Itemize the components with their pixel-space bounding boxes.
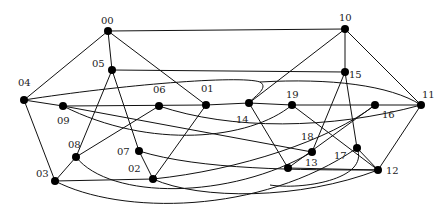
graph-edge: [108, 29, 345, 31]
graph-node-10: [341, 25, 349, 33]
node-label: 03: [36, 168, 49, 179]
graph-edge: [108, 31, 112, 70]
graph-node-00: [104, 27, 112, 35]
graph-edge: [312, 72, 345, 152]
graph-node-11: [417, 101, 425, 109]
edges: [24, 29, 421, 203]
graph-edge: [24, 80, 263, 103]
node-label: 14: [236, 114, 249, 125]
graph-node-14: [245, 99, 253, 107]
graph-edge: [112, 70, 139, 151]
node-label: 06: [153, 84, 166, 95]
graph-node-13: [284, 164, 292, 172]
graph-edge: [76, 152, 312, 189]
node-label: 13: [305, 157, 318, 168]
node-label: 07: [117, 146, 130, 157]
graph-edge: [139, 151, 153, 179]
graph-edge: [249, 103, 292, 105]
graph-node-06: [155, 102, 163, 110]
node-label: 02: [128, 163, 141, 174]
graph-node-03: [51, 177, 59, 185]
graph-edge: [55, 179, 153, 181]
graph-node-02: [149, 175, 157, 183]
graph-edge: [63, 105, 206, 106]
graph-edge: [55, 157, 76, 181]
graph-node-05: [108, 66, 116, 74]
graph-edge: [206, 103, 249, 105]
graph-node-15: [341, 68, 349, 76]
node-label: 05: [92, 58, 105, 69]
node-label: 12: [386, 165, 399, 176]
graph-node-19: [288, 101, 296, 109]
graph-node-09: [59, 102, 67, 110]
graph-edge: [260, 81, 421, 105]
graph-node-07: [135, 147, 143, 155]
graph-node-08: [72, 153, 80, 161]
graph-edge: [153, 105, 206, 179]
graph-node-12: [374, 166, 382, 174]
graph-edge: [357, 148, 378, 170]
node-label: 04: [18, 77, 31, 88]
graph-edge: [24, 100, 63, 106]
node-label: 11: [422, 89, 435, 100]
node-label: 17: [334, 150, 347, 161]
node-label: 00: [101, 15, 114, 26]
node-label: 08: [68, 139, 81, 150]
graph-edge: [345, 29, 421, 105]
graph-diagram: 0010051504090601141916110807020318131712: [0, 0, 446, 215]
graph-edge: [63, 105, 292, 135]
graph-node-04: [20, 96, 28, 104]
graph-node-01: [202, 101, 210, 109]
node-label: 16: [382, 109, 395, 120]
graph-edge: [249, 103, 288, 168]
graph-node-17: [353, 144, 361, 152]
node-label: 19: [286, 89, 299, 100]
graph-node-16: [371, 101, 379, 109]
graph-node-18: [308, 148, 316, 156]
node-label: 18: [301, 131, 314, 142]
graph-edge: [112, 70, 345, 72]
node-label: 01: [201, 83, 214, 94]
node-label: 15: [349, 69, 362, 80]
graph-edge: [76, 70, 112, 157]
node-label: 09: [57, 115, 70, 126]
node-label: 10: [339, 12, 352, 23]
